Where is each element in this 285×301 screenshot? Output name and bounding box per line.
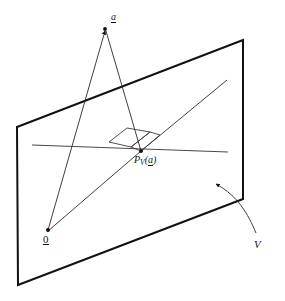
figure-canvas: a 0 V PV(a) — [0, 0, 285, 301]
label-origin: 0 — [43, 234, 49, 245]
point-a-dot — [103, 27, 107, 31]
point-origin-dot — [46, 228, 50, 232]
label-projection: PV(a) — [134, 155, 156, 167]
label-projection-paren-close: ) — [153, 154, 156, 165]
label-origin-text: 0 — [43, 234, 49, 245]
plane-v-outline — [17, 40, 243, 285]
label-plane-v: V — [254, 239, 261, 250]
label-plane-v-text: V — [254, 238, 261, 250]
geometry-diagram-svg — [0, 0, 285, 301]
label-vector-a: a — [111, 12, 116, 23]
label-vector-a-text: a — [111, 12, 116, 23]
point-projection-dot — [139, 149, 143, 153]
